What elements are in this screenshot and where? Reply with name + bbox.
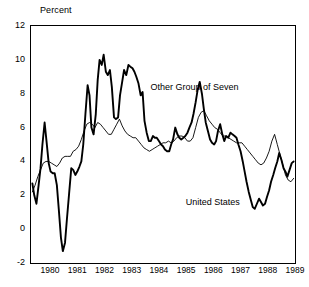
y-axis-tick-neg2: -2 — [3, 258, 25, 267]
plot-frame-border — [31, 26, 296, 264]
y-axis-tick-8: 8 — [3, 89, 25, 98]
x-axis-tick-1980: 1980 — [35, 266, 65, 275]
chart-container: Percent 121086420-2 19801981198219831984… — [0, 0, 309, 287]
x-axis-tick-1987: 1987 — [226, 266, 256, 275]
plot-area — [0, 0, 309, 287]
series-other-group-of-seven — [32, 111, 293, 192]
x-axis-tick-1988: 1988 — [253, 266, 283, 275]
x-axis-tick-1982: 1982 — [89, 266, 119, 275]
x-axis-tick-1981: 1981 — [62, 266, 92, 275]
x-axis-tick-1985: 1985 — [171, 266, 201, 275]
y-axis-tick-4: 4 — [3, 156, 25, 165]
x-axis-tick-1986: 1986 — [198, 266, 228, 275]
x-axis-tick-1984: 1984 — [144, 266, 174, 275]
y-axis-tick-0: 0 — [3, 224, 25, 233]
x-axis-tick-1989: 1989 — [280, 266, 309, 275]
line-other-group-of-seven — [32, 111, 293, 192]
y-axis-tick-2: 2 — [3, 190, 25, 199]
series-label-other-group-of-seven: Other Group of Seven — [150, 82, 238, 92]
series-label-united-states: United States — [186, 197, 240, 207]
y-axis-tick-6: 6 — [3, 123, 25, 132]
y-axis-tick-10: 10 — [3, 55, 25, 64]
y-axis-tick-12: 12 — [3, 21, 25, 30]
x-axis-tick-1983: 1983 — [117, 266, 147, 275]
